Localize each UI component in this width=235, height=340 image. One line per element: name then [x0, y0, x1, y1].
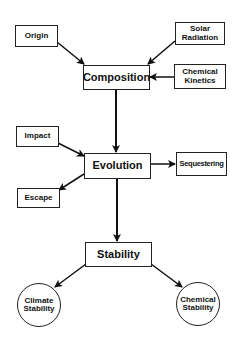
node-impact-label: Impact — [25, 132, 51, 140]
node-chemical-stability-line2: Stability — [182, 304, 213, 312]
edge-origin-composition — [57, 42, 84, 64]
node-chemical-kinetics: Chemical Kinetics — [174, 64, 226, 89]
edge-stability-chemical — [151, 264, 182, 287]
node-composition-label: Composition — [83, 72, 150, 84]
node-escape-label: Escape — [24, 194, 52, 202]
edge-stability-climate — [55, 264, 86, 287]
node-solar-radiation-line2: Radiation — [182, 34, 218, 42]
edge-impact-evolution — [58, 143, 84, 156]
node-climate-stability-line2: Stability — [23, 305, 54, 313]
node-origin: Origin — [15, 25, 58, 47]
node-impact: Impact — [16, 126, 59, 147]
node-sequestering: Sequestering — [176, 152, 227, 176]
node-solar-radiation: Solar Radiation — [175, 22, 225, 45]
node-stability-label: Stability — [97, 249, 140, 261]
node-chemical-stability: Chemical Stability — [176, 282, 220, 326]
node-evolution-label: Evolution — [92, 160, 142, 172]
node-stability: Stability — [85, 242, 152, 267]
node-composition: Composition — [83, 65, 150, 90]
node-evolution: Evolution — [84, 153, 151, 179]
node-sequestering-label: Sequestering — [180, 160, 224, 168]
edge-evolution-escape — [59, 174, 84, 190]
node-origin-label: Origin — [25, 32, 49, 40]
node-chemical-kinetics-line2: Kinetics — [184, 77, 215, 85]
node-climate-stability: Climate Stability — [17, 283, 61, 327]
node-escape: Escape — [17, 188, 60, 208]
edge-solar-composition — [148, 41, 175, 64]
